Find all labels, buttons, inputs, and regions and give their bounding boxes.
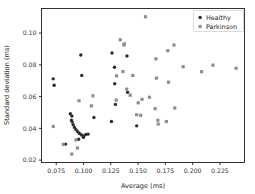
data-point [115,99,118,102]
data-point [92,116,95,119]
data-point [234,67,237,70]
data-point [110,51,113,54]
x-axis-title: Average (ms) [121,182,165,190]
data-point [82,136,85,139]
data-point [200,70,203,73]
data-point [167,81,170,84]
data-point [154,57,157,60]
legend-marker-healthy [198,16,201,19]
plot-canvas: 0.0750.1000.1250.1500.1750.2000.225 0.02… [0,0,255,194]
data-point [211,64,214,67]
data-point [140,98,143,101]
data-point [144,15,147,18]
y-tick-label: 0.10 [23,29,37,36]
data-point [156,119,159,122]
data-point [155,77,158,80]
data-points-layer [51,15,237,156]
data-point [113,66,116,69]
data-point [91,94,94,97]
data-point [125,54,128,57]
data-point [62,143,65,146]
y-axis-title: Standard deviation (ms) [3,45,11,125]
data-point [137,101,140,104]
x-tick-label: 0.075 [47,167,65,174]
series-healthy [51,51,138,146]
y-axis-ticks: 0.020.040.060.080.10 [23,29,42,163]
data-point [77,99,80,102]
x-tick-label: 0.200 [184,167,202,174]
legend-label-parkinson[interactable]: Parkinson [206,23,237,31]
data-point [70,152,73,155]
data-point [165,120,168,123]
data-point [114,103,117,106]
data-point [86,132,89,135]
legend-label-healthy[interactable]: Healthy [206,14,231,22]
data-point [115,74,118,77]
data-point [154,107,157,110]
y-tick-label: 0.02 [23,156,37,163]
data-point [139,114,142,117]
data-point [148,96,151,99]
x-tick-label: 0.150 [129,167,147,174]
data-point [125,88,128,91]
data-point [135,113,138,116]
x-tick-label: 0.125 [102,167,120,174]
data-point [135,124,138,127]
data-point [173,106,176,109]
data-point [52,83,55,86]
data-point [121,70,124,73]
x-axis-ticks: 0.0750.1000.1250.1500.1750.2000.225 [47,163,228,174]
legend[interactable]: HealthyParkinson [194,11,244,32]
data-point [131,74,134,77]
data-point [129,94,132,97]
data-point [70,114,73,117]
x-tick-label: 0.175 [157,167,175,174]
data-point [76,146,79,149]
data-point [51,77,54,80]
y-tick-label: 0.04 [23,125,37,132]
data-point [80,74,83,77]
data-point [113,82,116,85]
y-tick-label: 0.06 [23,93,37,100]
data-point [182,65,185,68]
x-tick-label: 0.225 [211,167,229,174]
data-point [52,125,55,128]
data-point [110,120,113,123]
data-point [126,91,129,94]
legend-marker-parkinson [199,25,202,28]
data-point [74,138,77,141]
y-tick-label: 0.08 [23,61,37,68]
data-point [90,104,93,107]
data-point [166,49,169,52]
data-point [172,43,175,46]
data-point [123,42,126,45]
scatter-plot-figure: 0.0750.1000.1250.1500.1750.2000.225 0.02… [0,0,255,194]
x-tick-label: 0.100 [75,167,93,174]
data-point [119,38,122,41]
data-point [157,122,160,125]
data-point [79,53,82,56]
